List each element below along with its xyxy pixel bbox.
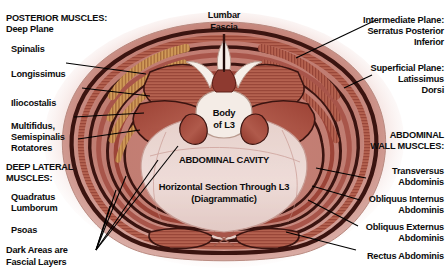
label-vertebral-body-line2: of L3 <box>194 120 254 130</box>
label-obliquus-externus-line2: Abdominis <box>294 234 444 243</box>
label-superficial-plane-line1: Superficial Plane: <box>304 64 444 73</box>
label-obliquus-internus-line1: Obliquus Internus <box>294 195 444 204</box>
caption-line1: Horizontal Section Through L3 <box>134 182 314 192</box>
abdominal-wall-header-line1: ABDOMINAL <box>304 131 444 140</box>
label-intermediate-plane-line2: Serratus Posterior <box>304 27 444 36</box>
label-spinalis: Spinalis <box>11 45 45 54</box>
label-quadratus-line2: Lumborum <box>11 204 57 213</box>
posterior-muscles-header-line2: Deep Plane <box>6 25 54 34</box>
label-intermediate-plane-line3: Inferior <box>304 38 444 47</box>
label-multifidus-line1: Multifidus, <box>11 122 55 131</box>
label-abdominal-cavity: ABDOMINAL CAVITY <box>144 155 304 165</box>
anatomy-diagram-page: POSTERIOR MUSCLES: Deep Plane Spinalis L… <box>0 0 448 275</box>
label-obliquus-externus-line1: Obliquus Externus <box>294 223 444 232</box>
caption-line2: (Diagrammatic) <box>134 194 314 204</box>
label-longissimus: Longissimus <box>11 70 65 79</box>
label-quadratus-line1: Quadratus <box>11 193 55 202</box>
label-rectus-abdominis: Rectus Abdominis <box>294 252 444 261</box>
label-multifidus-line3: Rotatores <box>11 144 52 153</box>
label-fascial-note-line2: Fascial Layers <box>6 258 67 267</box>
label-lumbar-fascia-line2: Fascia <box>194 23 254 32</box>
deep-lateral-header-line1: DEEP LATERAL <box>6 163 73 172</box>
posterior-muscles-header-line1: POSTERIOR MUSCLES: <box>6 14 107 23</box>
label-obliquus-internus-line2: Abdominis <box>294 206 444 215</box>
deep-lateral-header-line2: MUSCLES: <box>6 174 52 183</box>
label-vertebral-body-line1: Body <box>194 108 254 118</box>
label-psoas: Psoas <box>11 226 37 235</box>
label-multifidus-line2: Semispinalis <box>11 133 65 142</box>
label-fascial-note-line1: Dark Areas are <box>6 246 68 255</box>
label-intermediate-plane-line1: Intermediate Plane: <box>304 16 444 25</box>
label-lumbar-fascia-line1: Lumbar <box>194 11 254 20</box>
abdominal-wall-header-line2: WALL MUSCLES: <box>304 142 444 151</box>
label-superficial-plane-line2: Latissimus <box>304 75 444 84</box>
label-iliocostalis: Iliocostalis <box>11 99 56 108</box>
label-superficial-plane-line3: Dorsi <box>304 86 444 95</box>
label-transversus-line1: Transversus <box>304 167 444 176</box>
label-transversus-line2: Abdominis <box>304 178 444 187</box>
